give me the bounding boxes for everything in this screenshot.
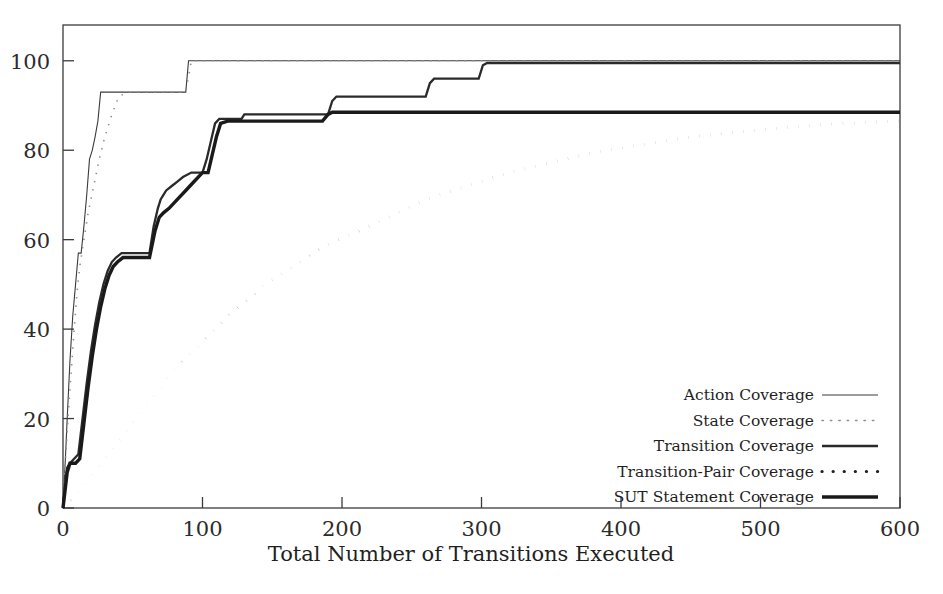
coverage-line-chart: 020406080100 0100200300400500600 Action … [0,0,943,594]
x-tick-label: 200 [322,517,362,541]
x-tick-label: 600 [880,517,920,541]
x-tick-label: 100 [182,517,222,541]
x-tick-label: 400 [601,517,641,541]
legend-label: Transition Coverage [654,437,814,455]
y-tick-label: 0 [37,497,50,521]
x-tick-label: 300 [461,517,501,541]
x-tick-label: 500 [740,517,780,541]
y-tick-label: 60 [23,229,50,253]
x-tick-label: 0 [56,517,69,541]
legend-label: SUT Statement Coverage [614,488,814,506]
y-tick-label: 80 [23,139,50,163]
legend-label: Transition-Pair Coverage [617,463,814,481]
legend-label: Action Coverage [683,386,814,404]
legend-label: State Coverage [693,412,814,430]
chart-figure: 020406080100 0100200300400500600 Action … [0,0,943,594]
y-tick-label: 20 [23,408,50,432]
y-tick-label: 100 [10,50,50,74]
y-tick-label: 40 [23,318,50,342]
x-axis-title: Total Number of Transitions Executed [268,542,674,566]
